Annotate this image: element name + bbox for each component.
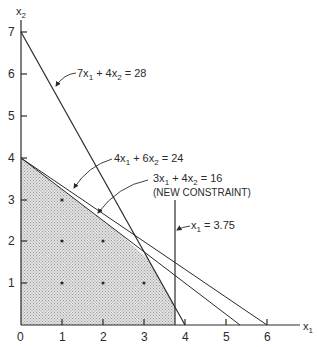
y-tick-label: 6 — [8, 67, 15, 81]
y-tick-label: 3 — [8, 193, 15, 207]
x-tick-label: 6 — [264, 330, 271, 344]
integer-point — [60, 281, 63, 284]
lp-diagram: 0 1 2 3 4 5 6 1 2 3 4 5 6 7 x1 x2 7x1 + … — [0, 0, 319, 347]
leader-arrow-c4 — [177, 226, 190, 230]
origin-label: 0 — [17, 330, 24, 344]
y-tick-label: 7 — [8, 25, 15, 39]
leader-arrow-c1 — [56, 73, 76, 86]
integer-point — [60, 198, 63, 201]
constraint-label-c1: 7x1 + 4x2 = 28 — [77, 67, 146, 82]
y-axis-title: x2 — [16, 5, 27, 20]
feasible-region — [21, 158, 175, 325]
constraint-note-c3: (NEW CONSTRAINT) — [153, 187, 251, 198]
constraint-label-c4: x1 = 3.75 — [191, 219, 235, 234]
integer-point — [60, 239, 63, 242]
y-tick-label: 4 — [8, 151, 15, 165]
x-tick-label: 4 — [182, 330, 189, 344]
y-tick-label: 2 — [8, 234, 15, 248]
integer-point — [142, 281, 145, 284]
x-tick-label: 2 — [100, 330, 107, 344]
integer-point — [101, 239, 104, 242]
constraint-label-c3: 3x1 + 4x2 = 16 — [153, 172, 222, 187]
x-tick-label: 5 — [223, 330, 230, 344]
leader-arrow-c3 — [98, 180, 148, 213]
x-tick-label: 3 — [141, 330, 148, 344]
x-axis-title: x1 — [303, 320, 314, 335]
y-tick-label: 5 — [8, 109, 15, 123]
constraint-label-c2: 4x1 + 6x2 = 24 — [114, 152, 183, 167]
x-tick-label: 1 — [59, 330, 66, 344]
y-tick-label: 1 — [8, 276, 15, 290]
integer-point — [101, 281, 104, 284]
